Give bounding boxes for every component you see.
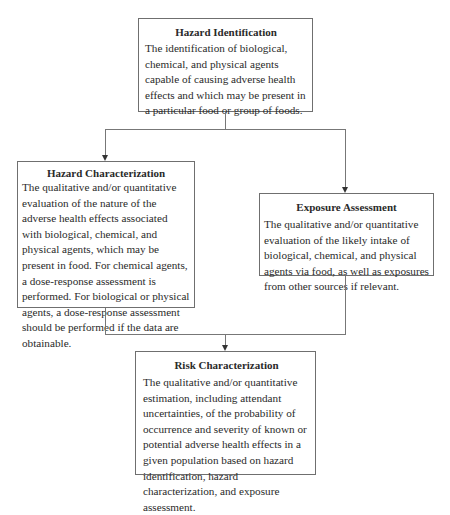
arrow-down-icon: [102, 155, 108, 161]
connector-line: [105, 129, 346, 130]
hazard-identification-text: The identification of biological, chemic…: [145, 41, 307, 119]
hazard-characterization-title: Hazard Characterization: [22, 166, 190, 180]
hazard-characterization-text: The qualitative and/or quantitative eval…: [22, 180, 190, 352]
risk-characterization-title: Risk Characterization: [143, 358, 310, 372]
connector-line: [105, 129, 106, 155]
connector-line: [225, 112, 226, 130]
hazard-identification-box: Hazard Identification The identification…: [138, 18, 313, 112]
hazard-characterization-box: Hazard Characterization The qualitative …: [17, 161, 195, 308]
hazard-identification-title: Hazard Identification: [145, 25, 307, 39]
arrow-down-icon: [222, 345, 228, 351]
arrow-down-icon: [342, 187, 348, 193]
connector-line: [345, 276, 346, 335]
risk-characterization-box: Risk Characterization The qualitative an…: [135, 351, 316, 475]
exposure-assessment-text: The qualitative and/or quantitative eval…: [264, 217, 429, 295]
connector-line: [225, 334, 226, 345]
connector-line: [345, 129, 346, 187]
exposure-assessment-title: Exposure Assessment: [264, 200, 429, 214]
exposure-assessment-box: Exposure Assessment The qualitative and/…: [259, 193, 434, 276]
risk-characterization-text: The qualitative and/or quantitative esti…: [143, 375, 310, 515]
connector-line: [105, 308, 106, 335]
